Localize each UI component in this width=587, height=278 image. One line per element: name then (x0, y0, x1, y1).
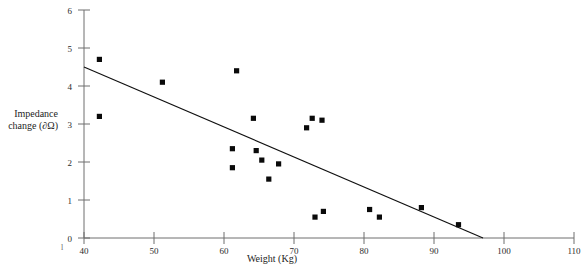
y-tick-label: 2 (68, 158, 73, 168)
y-tick-label: 5 (68, 44, 73, 54)
x-ticks-group: 405060708090100110 (80, 232, 582, 256)
y-tick-label: 3 (68, 120, 73, 130)
x-tick-label: 50 (150, 246, 160, 256)
trend-line-group (84, 67, 483, 238)
data-point-marker (266, 177, 271, 182)
x-axis-title: Weight (Kg) (247, 253, 297, 265)
y-tick-label: 0 (68, 234, 73, 244)
x-tick-label: 60 (220, 246, 230, 256)
data-point-marker (251, 116, 256, 121)
y-axis-title-line-2: change (∂Ω) (8, 120, 58, 132)
data-point-marker (456, 222, 461, 227)
corner-mark: l (61, 243, 64, 252)
y-tick-label: 4 (68, 82, 73, 92)
axes-group (84, 10, 574, 238)
data-point-marker (276, 161, 281, 166)
data-point-marker (312, 215, 317, 220)
data-point-marker (234, 68, 239, 73)
y-tick-label: 6 (68, 6, 73, 16)
data-point-marker (310, 116, 315, 121)
y-axis-title-line-1: Impedance (14, 108, 58, 119)
data-points-group (97, 57, 461, 228)
scatter-plot-figure: 0123456 405060708090100110 Weight (Kg) I… (0, 0, 587, 278)
y-ticks-group: 0123456 (68, 6, 91, 244)
data-point-marker (377, 215, 382, 220)
data-point-marker (97, 57, 102, 62)
data-point-marker (97, 114, 102, 119)
data-point-marker (419, 205, 424, 210)
y-tick-label: 1 (68, 196, 73, 206)
data-point-marker (319, 118, 324, 123)
x-tick-label: 90 (430, 246, 440, 256)
trend-line (84, 67, 483, 238)
data-point-marker (230, 165, 235, 170)
plot-canvas: 0123456 405060708090100110 Weight (Kg) I… (0, 0, 587, 278)
data-point-marker (367, 207, 372, 212)
x-tick-label: 80 (360, 246, 370, 256)
data-point-marker (321, 209, 326, 214)
data-point-marker (259, 158, 264, 163)
data-point-marker (254, 148, 259, 153)
data-point-marker (304, 125, 309, 130)
data-point-marker (160, 80, 165, 85)
x-tick-label: 110 (567, 246, 581, 256)
data-point-marker (230, 146, 235, 151)
x-tick-label: 100 (497, 246, 511, 256)
x-tick-label: 40 (80, 246, 90, 256)
